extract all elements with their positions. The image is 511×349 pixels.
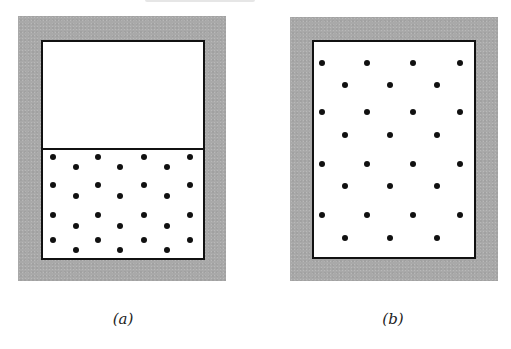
particle-dot — [387, 235, 393, 241]
particle-dot — [117, 223, 123, 229]
particle-dot — [50, 154, 56, 160]
particle-dot — [164, 193, 170, 199]
particle-dot — [387, 82, 393, 88]
particle-dot — [364, 161, 370, 167]
particle-dot — [342, 82, 348, 88]
particle-dot — [73, 164, 79, 170]
panel-b-container — [312, 40, 476, 259]
particle-dot — [457, 161, 463, 167]
particle-dot — [117, 193, 123, 199]
particle-dot — [95, 154, 101, 160]
particle-dot — [164, 223, 170, 229]
particle-dot — [434, 183, 440, 189]
particle-dot — [319, 212, 325, 218]
particle-dot — [73, 193, 79, 199]
particle-dot — [457, 60, 463, 66]
particle-dot — [95, 237, 101, 243]
particle-dot — [117, 164, 123, 170]
particle-dot — [364, 212, 370, 218]
particle-dot — [95, 182, 101, 188]
particle-dot — [410, 60, 416, 66]
particle-dot — [342, 235, 348, 241]
particle-dot — [410, 161, 416, 167]
particle-dot — [187, 237, 193, 243]
particle-dot — [141, 154, 147, 160]
particle-dot — [434, 82, 440, 88]
particle-dot — [319, 109, 325, 115]
particle-dot — [117, 247, 123, 253]
particle-dot — [50, 182, 56, 188]
particle-dot — [141, 182, 147, 188]
particle-dot — [410, 212, 416, 218]
particle-dot — [95, 212, 101, 218]
panel-a-label: (a) — [113, 310, 134, 328]
particle-dot — [410, 109, 416, 115]
particle-dot — [387, 183, 393, 189]
particle-dot — [50, 237, 56, 243]
particle-dot — [50, 212, 56, 218]
particle-dot — [387, 132, 393, 138]
particle-dot — [319, 60, 325, 66]
particle-dot — [434, 132, 440, 138]
particle-dot — [187, 154, 193, 160]
particle-dot — [434, 235, 440, 241]
particle-dot — [364, 60, 370, 66]
particle-dot — [73, 223, 79, 229]
panel-a-partition — [41, 148, 205, 150]
particle-dot — [187, 212, 193, 218]
particle-dot — [364, 109, 370, 115]
particle-dot — [164, 164, 170, 170]
particle-dot — [342, 183, 348, 189]
clipped-caption-fragment — [145, 0, 255, 2]
panel-b-label: (b) — [382, 310, 403, 328]
particle-dot — [457, 109, 463, 115]
particle-dot — [457, 212, 463, 218]
particle-dot — [319, 161, 325, 167]
panel-a-container — [41, 40, 205, 260]
particle-dot — [342, 132, 348, 138]
particle-dot — [187, 182, 193, 188]
particle-dot — [141, 237, 147, 243]
particle-dot — [141, 212, 147, 218]
particle-dot — [164, 247, 170, 253]
particle-dot — [73, 247, 79, 253]
